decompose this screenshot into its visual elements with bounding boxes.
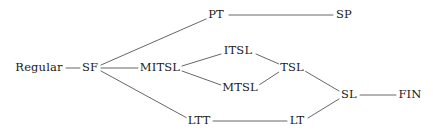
node-lt[interactable]: LT (289, 115, 306, 127)
node-regular[interactable]: Regular (14, 62, 63, 74)
node-sf[interactable]: SF (81, 62, 99, 74)
node-sl[interactable]: SL (340, 89, 358, 101)
node-itsl[interactable]: ITSL (223, 45, 253, 57)
node-tsl[interactable]: TSL (279, 62, 305, 74)
node-layer: RegularSFPTSPMITSLITSLMTSLTSLLTTLTSLFIN (0, 0, 439, 135)
node-fin[interactable]: FIN (397, 89, 422, 101)
hierarchy-diagram: RegularSFPTSPMITSLITSLMTSLTSLLTTLTSLFIN (0, 0, 439, 135)
node-pt[interactable]: PT (207, 9, 225, 21)
node-mitsl[interactable]: MITSL (139, 62, 181, 74)
node-mtsl[interactable]: MTSL (221, 82, 259, 94)
node-sp[interactable]: SP (335, 9, 353, 21)
node-ltt[interactable]: LTT (187, 115, 212, 127)
